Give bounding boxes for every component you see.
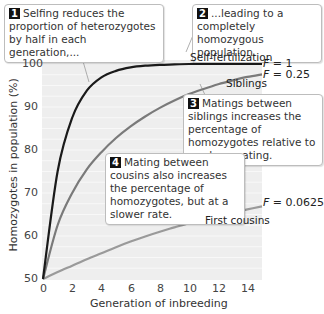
- x-axis-title: Generation of inbreeding: [90, 297, 228, 310]
- callout-4-text: Mating between cousins also increases th…: [110, 156, 228, 220]
- callout-4-number: 4: [110, 157, 121, 168]
- callout-1-text: Selfing reduces the proportion of hetero…: [9, 7, 156, 58]
- callout-1-number: 1: [9, 8, 20, 19]
- xtick-12: 12: [212, 282, 226, 295]
- f-cousin-label: F = 0.0625: [263, 196, 324, 209]
- xtick-6: 6: [128, 282, 135, 295]
- first-cousins-label: First cousins: [205, 214, 270, 226]
- callout-3-text: Matings between siblings increases the p…: [188, 97, 315, 161]
- ytick-50: 50: [24, 272, 38, 285]
- callout-1: 1Selfing reduces the proportion of heter…: [4, 4, 164, 63]
- f-sib-label: F = 0.25: [263, 68, 310, 81]
- xtick-8: 8: [157, 282, 164, 295]
- ytick-60: 60: [24, 229, 38, 242]
- ytick-70: 70: [24, 186, 38, 199]
- callout-3-number: 3: [188, 98, 199, 109]
- xtick-10: 10: [183, 282, 197, 295]
- y-axis-title: Homozygotes in population (%): [7, 82, 20, 252]
- ytick-100: 100: [22, 57, 43, 70]
- self-fertilization-label: Self-fertilization: [190, 51, 272, 63]
- siblings-label: Siblings: [226, 77, 267, 89]
- xtick-14: 14: [241, 282, 255, 295]
- ytick-90: 90: [24, 100, 38, 113]
- callout-2-number: 2: [197, 8, 208, 19]
- ytick-80: 80: [24, 143, 38, 156]
- xtick-4: 4: [98, 282, 105, 295]
- xtick-2: 2: [69, 282, 76, 295]
- xtick-0: 0: [40, 282, 47, 295]
